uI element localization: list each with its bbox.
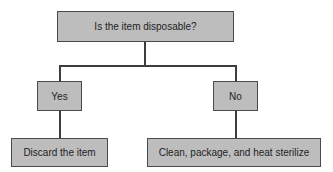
discard-outcome-box: Discard the item bbox=[11, 138, 108, 167]
discard-outcome-text: Discard the item bbox=[23, 147, 95, 158]
connector-to-no bbox=[235, 65, 237, 81]
connector-to-yes bbox=[59, 65, 61, 81]
yes-label: Yes bbox=[51, 91, 67, 102]
sterilize-outcome-box: Clean, package, and heat sterilize bbox=[147, 138, 321, 167]
question-text: Is the item disposable? bbox=[94, 21, 196, 32]
no-box: No bbox=[213, 81, 258, 111]
question-box: Is the item disposable? bbox=[57, 11, 234, 42]
connector-horizontal bbox=[59, 65, 237, 67]
sterilize-outcome-text: Clean, package, and heat sterilize bbox=[159, 147, 310, 158]
no-label: No bbox=[229, 91, 242, 102]
connector-root-down bbox=[144, 42, 146, 67]
connector-no-down bbox=[235, 111, 237, 138]
connector-yes-down bbox=[59, 111, 61, 138]
yes-box: Yes bbox=[37, 81, 82, 111]
